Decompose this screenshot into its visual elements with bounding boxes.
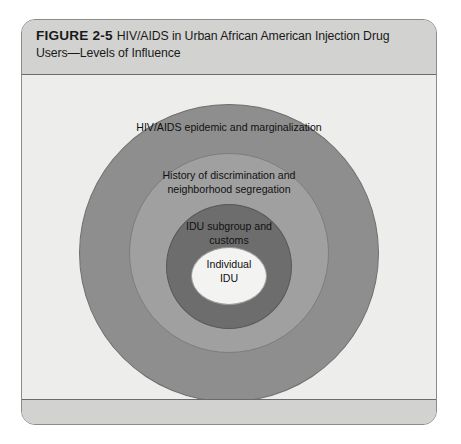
figure-caption: FIGURE 2-5HIV/AIDS in Urban African Amer… — [36, 28, 422, 61]
figure-footer — [22, 399, 436, 424]
figure-number-label: FIGURE 2-5 — [36, 28, 113, 43]
ring-label-second: History of discrimination and neighborho… — [129, 169, 329, 196]
figure-header: FIGURE 2-5HIV/AIDS in Urban African Amer… — [22, 20, 436, 75]
ring-label-third: IDU subgroup and customs — [159, 220, 299, 247]
ring-label-outermost: HIV/AIDS epidemic and marginalization — [99, 121, 359, 135]
ring-label-innermost: Individual IDU — [184, 258, 274, 285]
diagram-area: HIV/AIDS epidemic and marginalization Hi… — [22, 75, 436, 400]
figure-panel: FIGURE 2-5HIV/AIDS in Urban African Amer… — [21, 19, 437, 425]
